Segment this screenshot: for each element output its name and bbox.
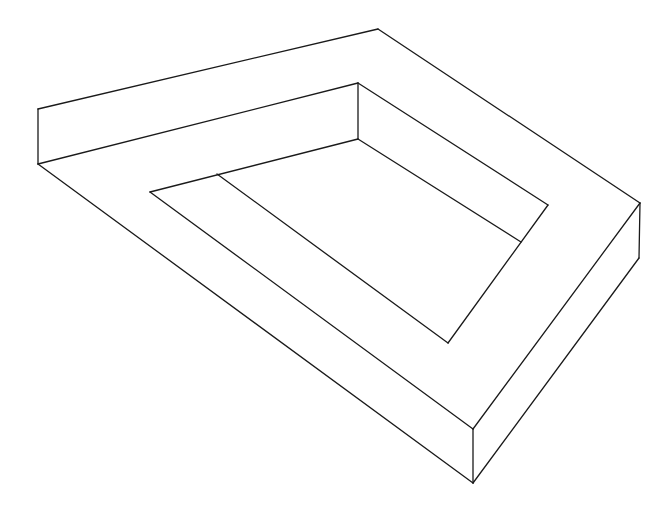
divider-diagonal — [217, 174, 448, 343]
outer-right-vertical — [639, 203, 640, 258]
inner-right-tip-to-v — [448, 205, 548, 343]
outer-top-edge — [38, 29, 378, 109]
outer-left-diagonal — [38, 164, 473, 483]
outer-bottom-right-edge — [473, 258, 639, 483]
inner-top-left-edge — [150, 139, 358, 192]
inner-top-right-edge — [358, 83, 548, 205]
inner-lower-right-edge — [358, 139, 521, 242]
right-corner-to-front — [473, 203, 640, 429]
inner-left-diagonal — [150, 192, 473, 429]
impossible-frame-drawing — [0, 0, 672, 508]
